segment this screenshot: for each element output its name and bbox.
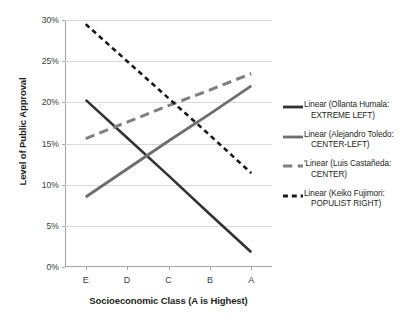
x-tick-mark xyxy=(86,267,87,270)
legend-item-label-line2: EXTREME LEFT) xyxy=(304,111,389,122)
legend-line-swatch-icon xyxy=(283,101,303,113)
legend-line-swatch-icon xyxy=(283,190,303,202)
series-line-2 xyxy=(86,74,252,139)
y-tick-mark xyxy=(62,267,65,268)
y-tick-label: 20% xyxy=(42,97,59,107)
series-line-3 xyxy=(86,24,252,173)
line-chart-figure: Level of Public Approval 0%5%10%15%20%25… xyxy=(0,0,415,322)
legend-item-label: Linear (Ollanta Humala:EXTREME LEFT) xyxy=(304,100,389,121)
legend-item[interactable]: Linear (Ollanta Humala:EXTREME LEFT) xyxy=(283,100,415,121)
legend-item[interactable]: Linear (Keiko Fujimori:POPULIST RIGHT) xyxy=(283,189,415,210)
x-tick-mark xyxy=(210,267,211,270)
y-tick-label: 25% xyxy=(42,56,59,66)
plot-area: 0%5%10%15%20%25%30% EDCBA xyxy=(65,20,272,267)
series-line-1 xyxy=(86,86,252,197)
series-line-0 xyxy=(86,100,252,252)
x-tick-label: C xyxy=(165,275,172,285)
x-tick-mark xyxy=(251,267,252,270)
legend-item-label: Linear (Keiko Fujimori:POPULIST RIGHT) xyxy=(304,189,385,210)
y-tick-label: 30% xyxy=(42,15,59,25)
x-tick-label: B xyxy=(207,275,213,285)
x-axis-title: Socioeconomic Class (A is Highest) xyxy=(65,295,272,306)
y-tick-label: 15% xyxy=(42,139,59,149)
x-tick-label: E xyxy=(83,275,89,285)
legend-prefix-glyph: ' xyxy=(304,159,306,168)
legend-line-swatch-icon xyxy=(283,131,303,143)
y-axis-title: Level of Public Approval xyxy=(17,52,28,212)
legend-item-label-line2: POPULIST RIGHT) xyxy=(304,199,385,210)
legend-item[interactable]: Linear (Alejandro Toledo:CENTER-LEFT) xyxy=(283,130,415,151)
legend-item-label: 'Linear (Luis Castañeda:CENTER) xyxy=(304,159,391,180)
chart-legend: Linear (Ollanta Humala:EXTREME LEFT)Line… xyxy=(283,100,415,218)
legend-item-label-line2: CENTER) xyxy=(304,170,391,181)
legend-item-label-line2: CENTER-LEFT) xyxy=(304,140,394,151)
series-lines-group xyxy=(65,20,272,267)
legend-line-swatch-icon xyxy=(283,160,303,172)
y-tick-label: 0% xyxy=(47,262,59,272)
legend-item[interactable]: 'Linear (Luis Castañeda:CENTER) xyxy=(283,159,415,180)
x-tick-label: A xyxy=(248,275,254,285)
x-tick-mark xyxy=(169,267,170,270)
legend-item-label: Linear (Alejandro Toledo:CENTER-LEFT) xyxy=(304,130,394,151)
y-tick-label: 5% xyxy=(47,221,59,231)
x-tick-label: D xyxy=(124,275,131,285)
y-tick-label: 10% xyxy=(42,180,59,190)
x-tick-mark xyxy=(127,267,128,270)
